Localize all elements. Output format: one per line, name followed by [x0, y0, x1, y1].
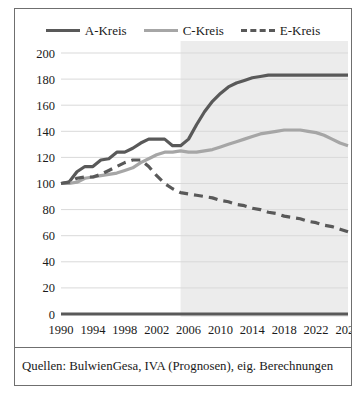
x-axis-tick-labels: 1990199419982002200620102014201820222026 — [49, 323, 352, 337]
svg-text:200: 200 — [36, 47, 55, 61]
svg-text:2006: 2006 — [176, 323, 201, 337]
svg-text:2010: 2010 — [208, 323, 233, 337]
forecast-band — [181, 41, 348, 317]
svg-text:1998: 1998 — [112, 323, 137, 337]
svg-text:160: 160 — [36, 99, 55, 113]
line-chart-plot: 020406080100120140160180200 199019941998… — [15, 9, 351, 347]
chart-area: A-Kreis C-Kreis E-Kreis 0204060801001201… — [15, 9, 351, 347]
svg-text:1994: 1994 — [80, 323, 106, 337]
svg-text:40: 40 — [43, 255, 56, 269]
svg-text:100: 100 — [36, 177, 55, 191]
svg-text:140: 140 — [36, 125, 55, 139]
y-axis-tick-labels: 020406080100120140160180200 — [36, 47, 55, 322]
figure-container: A-Kreis C-Kreis E-Kreis 0204060801001201… — [14, 8, 352, 386]
svg-text:80: 80 — [43, 203, 56, 217]
svg-text:2026: 2026 — [336, 323, 352, 337]
svg-text:2014: 2014 — [240, 323, 266, 337]
svg-text:1990: 1990 — [49, 323, 74, 337]
source-caption: Quellen: BulwienGesa, IVA (Prognosen), e… — [15, 348, 351, 385]
svg-text:2002: 2002 — [144, 323, 169, 337]
svg-text:2022: 2022 — [304, 323, 329, 337]
svg-text:0: 0 — [49, 308, 55, 322]
svg-text:60: 60 — [43, 229, 56, 243]
svg-text:20: 20 — [43, 281, 56, 295]
svg-text:2018: 2018 — [272, 323, 297, 337]
svg-text:120: 120 — [36, 151, 55, 165]
svg-text:180: 180 — [36, 73, 55, 87]
source-caption-text: Quellen: BulwienGesa, IVA (Prognosen), e… — [22, 359, 333, 374]
